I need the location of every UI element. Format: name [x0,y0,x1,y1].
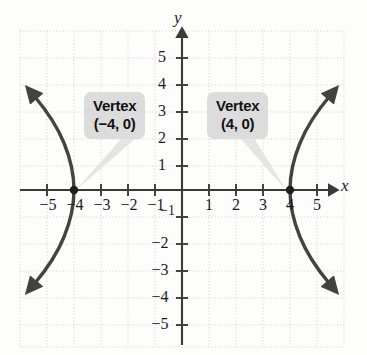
left-branch-upper [35,97,74,190]
x-tick-label-neg5: −5 [36,196,60,214]
y-axis-label: y [174,8,182,28]
x-tick-label-neg3: −3 [90,196,114,214]
x-tick-label-5: 5 [307,196,327,214]
x-tick-label-2: 2 [226,196,246,214]
callout-tail-left [76,138,136,190]
coordinate-plane-svg [0,0,367,355]
y-tick-label-3: 3 [152,102,172,120]
vertex-callout-left-coords: (−4, 0) [93,115,136,133]
y-tick-label-5: 5 [152,48,172,66]
vertex-callout-right: Vertex (4, 0) [207,92,268,139]
right-branch-upper [290,97,329,190]
graph-figure-page: y x −5 −4 −3 −2 −1 1 2 3 4 5 5 4 3 2 1 −… [0,0,367,355]
vertex-dot-left [70,186,78,194]
x-axis-label: x [341,176,349,196]
vertex-callout-left: Vertex (−4, 0) [84,92,145,139]
vertex-callout-left-title: Vertex [93,97,136,115]
x-tick-label-4: 4 [280,196,300,214]
x-tick-label-3: 3 [253,196,273,214]
x-tick-label-neg2: −2 [117,196,141,214]
y-tick-label-neg5: −5 [148,315,172,333]
y-tick-label-4: 4 [152,75,172,93]
y-tick-label-2: 2 [152,129,172,147]
y-tick-label-neg3: −3 [148,261,172,279]
y-tick-label-neg1: −1 [160,203,174,219]
vertex-callout-right-coords: (4, 0) [216,115,259,133]
vertex-callout-right-title: Vertex [216,97,259,115]
vertex-dot-right [286,186,294,194]
x-tick-label-1: 1 [199,196,219,214]
y-tick-label-neg4: −4 [148,288,172,306]
y-tick-label-1: 1 [152,156,172,174]
y-tick-label-neg2: −2 [148,234,172,252]
x-tick-label-neg4: −4 [63,196,87,214]
